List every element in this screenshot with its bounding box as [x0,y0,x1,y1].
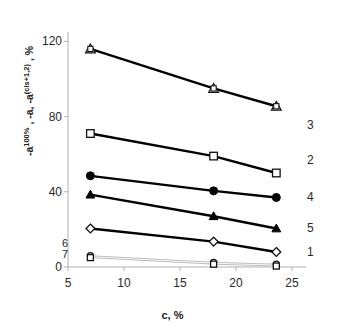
series-label-3: 3 [307,118,314,132]
series-line-5 [90,195,276,229]
x-axis-label-wrapper: c, % [0,305,345,323]
series-2 [87,130,281,177]
x-axis-label: c, % [161,309,183,321]
marker-filled-circle [210,187,218,195]
x-tick-label: 20 [229,276,242,290]
marker-open-diamond [272,248,281,257]
chart-container: -a100% , -a, -a(cis+1,2) , % c, % 040801… [0,0,345,330]
marker-filled-circle [86,172,94,180]
y-axis-label-part-1: -a [23,147,35,156]
series-label-4: 4 [307,190,314,204]
x-tick-label: 25 [285,276,298,290]
y-tick-label: 120 [18,34,62,48]
y-axis-label-sup-1: 100% [22,128,31,147]
series-line-4 [90,176,276,198]
series-label-5: 5 [307,221,314,235]
marker-open-diamond [209,237,218,246]
series-4 [86,172,280,202]
series-line-2 [90,134,276,173]
series-label-7: 7 [62,248,68,260]
marker-open-square [87,255,93,261]
series-line-3 [90,49,276,106]
series-line-7 [90,258,276,266]
marker-open-square [88,46,93,51]
marker-open-diamond [86,224,95,233]
y-axis-label-sup-2: (cis+1,2) [22,64,31,94]
marker-open-square [274,104,279,109]
y-tick-label: 40 [18,185,62,199]
x-tick-label: 10 [117,276,130,290]
series-5 [86,190,281,232]
series-line-1 [90,228,276,252]
series-3 [86,44,282,110]
x-tick-label: 15 [173,276,186,290]
series-1 [86,224,281,256]
y-axis-label: -a100% , -a, -a(cis+1,2) , % [23,46,35,156]
marker-open-square [210,152,218,160]
series-label-2: 2 [307,153,314,167]
series-label-1: 1 [307,245,314,259]
marker-open-square [273,169,281,177]
y-axis-label-part-3: , % [23,46,35,64]
marker-open-square [87,130,95,138]
marker-open-square [211,261,217,267]
x-tick-label: 5 [65,276,72,290]
marker-open-square [211,86,216,91]
y-tick-label: 80 [18,110,62,124]
y-tick-label: 0 [18,260,62,274]
marker-open-square [273,263,279,269]
marker-filled-circle [272,193,280,201]
